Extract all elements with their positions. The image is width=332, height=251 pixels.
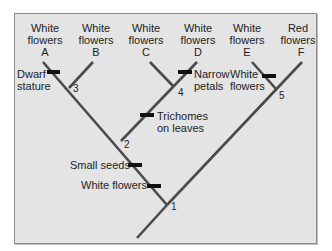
- label-white-flowers-e: White flowers: [230, 68, 265, 92]
- label-dwarf-stature: Dwarf stature: [17, 68, 51, 92]
- label-white-flowers-1-2: White flowers: [81, 179, 147, 191]
- taxon-d-letter: D: [173, 46, 223, 58]
- marker-trichomes: [140, 113, 154, 117]
- label-narrow-line1: Narrow: [194, 68, 229, 80]
- label-narrow-line2: petals: [194, 80, 229, 92]
- taxon-f: Red flowers F: [276, 22, 326, 58]
- label-white-e-line2: flowers: [230, 80, 265, 92]
- taxon-c-trait: White flowers: [121, 22, 171, 46]
- node-3-label: 3: [73, 83, 79, 95]
- node-4-label: 4: [178, 87, 184, 99]
- taxon-e-trait: White flowers: [222, 22, 272, 46]
- branch-root: [137, 205, 167, 238]
- taxon-c: White flowers C: [121, 22, 171, 58]
- taxon-c-letter: C: [121, 46, 171, 58]
- taxon-d: White flowers D: [173, 22, 223, 58]
- taxon-a: White flowers A: [20, 22, 70, 58]
- taxon-f-trait: Red flowers: [276, 22, 320, 46]
- label-trichomes: Trichomes on leaves: [157, 110, 208, 134]
- branch-c: [150, 62, 173, 86]
- taxon-b: White flowers B: [71, 22, 121, 58]
- taxon-f-letter: F: [276, 46, 326, 58]
- marker-narrow-petals: [178, 70, 192, 74]
- marker-white-flowers-1-2: [147, 184, 161, 188]
- taxon-e-letter: E: [222, 46, 272, 58]
- marker-small-seeds: [128, 163, 142, 167]
- label-trichomes-line1: Trichomes: [157, 110, 208, 122]
- node-1-label: 1: [171, 201, 177, 213]
- label-narrow-petals: Narrow petals: [194, 68, 229, 92]
- label-dwarf-line2: stature: [17, 80, 51, 92]
- label-trichomes-line2: on leaves: [157, 122, 208, 134]
- taxon-a-trait: White flowers: [20, 22, 70, 46]
- taxon-d-trait: White flowers: [173, 22, 223, 46]
- taxon-e: White flowers E: [222, 22, 272, 58]
- taxon-b-letter: B: [71, 46, 121, 58]
- label-small-seeds: Small seeds: [70, 159, 130, 171]
- taxon-a-letter: A: [20, 46, 70, 58]
- taxon-b-trait: White flowers: [71, 22, 121, 46]
- node-5-label: 5: [279, 90, 285, 102]
- label-dwarf-line1: Dwarf: [17, 68, 51, 80]
- label-white-e-line1: White: [230, 68, 265, 80]
- node-2-label: 2: [124, 139, 130, 151]
